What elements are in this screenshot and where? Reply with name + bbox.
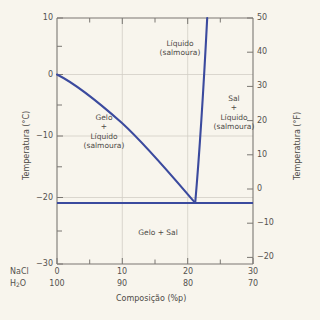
region-liquid-line1: Líquido <box>138 39 222 48</box>
y-right-tick-50: 50 <box>257 13 267 22</box>
region-salt-liquid-line1: Sal <box>200 94 268 103</box>
y-axis-right-title: Temperatura (°F) <box>293 112 302 180</box>
region-ice-liquid-line1: Gelo <box>62 113 146 122</box>
y-left-tick-0: 0 <box>41 70 53 79</box>
x-tick-h2o-90: 90 <box>112 279 132 288</box>
region-label-salt-plus-liquid: Sal + Líquido (salmoura) <box>200 94 268 131</box>
y-right-tick-40: 40 <box>257 47 267 56</box>
y-left-tick-minus20: −20 <box>33 193 53 202</box>
y-right-tick-minus10: −10 <box>257 218 274 227</box>
y-right-tick-minus20: −20 <box>257 252 274 261</box>
region-label-ice-plus-salt: Gelo + Sal <box>118 228 198 237</box>
region-salt-liquid-line3: Líquido <box>200 113 268 122</box>
x-tick-h2o-80: 80 <box>178 279 198 288</box>
y-axis-left-title: Temperatura (°C) <box>22 111 31 180</box>
x-tick-nacl-30: 30 <box>243 267 263 276</box>
region-salt-liquid-line2: + <box>200 103 268 112</box>
region-ice-salt-line1: Gelo + Sal <box>118 228 198 237</box>
y-right-tick-10: 10 <box>257 150 267 159</box>
x-tick-nacl-20: 20 <box>178 267 198 276</box>
x-tick-nacl-0: 0 <box>47 267 67 276</box>
y-left-tick-minus10: −10 <box>33 131 53 140</box>
region-ice-liquid-line3: Líquido <box>62 132 146 141</box>
x-tick-nacl-10: 10 <box>112 267 132 276</box>
region-label-ice-plus-liquid: Gelo + Líquido (salmoura) <box>62 113 146 150</box>
corner-label-h2o: H2O <box>10 279 26 289</box>
y-right-tick-0: 0 <box>257 184 262 193</box>
x-axis-title: Composição (%p) <box>116 294 186 303</box>
corner-label-nacl: NaCl <box>10 267 29 276</box>
region-liquid-line2: (salmoura) <box>138 48 222 57</box>
x-tick-h2o-100: 100 <box>47 279 67 288</box>
y-right-tick-30: 30 <box>257 81 267 90</box>
region-ice-liquid-line2: + <box>62 122 146 131</box>
region-salt-liquid-line4: (salmoura) <box>200 122 268 131</box>
region-ice-liquid-line4: (salmoura) <box>62 141 146 150</box>
y-left-tick-10: 10 <box>41 13 53 22</box>
region-label-liquid: Líquido (salmoura) <box>138 39 222 58</box>
x-tick-h2o-70: 70 <box>243 279 263 288</box>
